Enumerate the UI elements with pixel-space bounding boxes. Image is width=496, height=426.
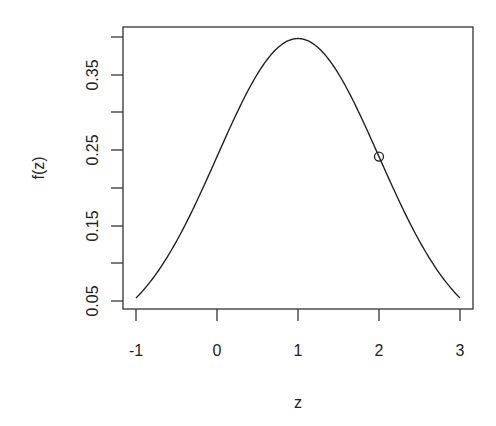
- y-tick-label: 0.25: [84, 134, 101, 165]
- y-axis: 0.05 0.15 0.25 0.35: [84, 37, 123, 317]
- y-axis-title: f(z): [30, 156, 47, 179]
- x-tick-label: 2: [375, 342, 384, 359]
- x-tick-label: 3: [456, 342, 465, 359]
- y-tick-label: 0.15: [84, 210, 101, 241]
- x-axis-title: z: [294, 394, 302, 411]
- x-tick-label: 0: [213, 342, 222, 359]
- y-tick-label: 0.05: [84, 285, 101, 316]
- y-tick-label: 0.35: [84, 59, 101, 90]
- x-tick-label: -1: [129, 342, 143, 359]
- chart-svg: -1 0 1 2 3 0.05 0.15 0.25 0.35 z f(z): [0, 0, 496, 426]
- x-tick-label: 1: [294, 342, 303, 359]
- plot-frame: [123, 27, 473, 309]
- x-axis: -1 0 1 2 3: [129, 309, 465, 359]
- density-curve: [136, 39, 460, 298]
